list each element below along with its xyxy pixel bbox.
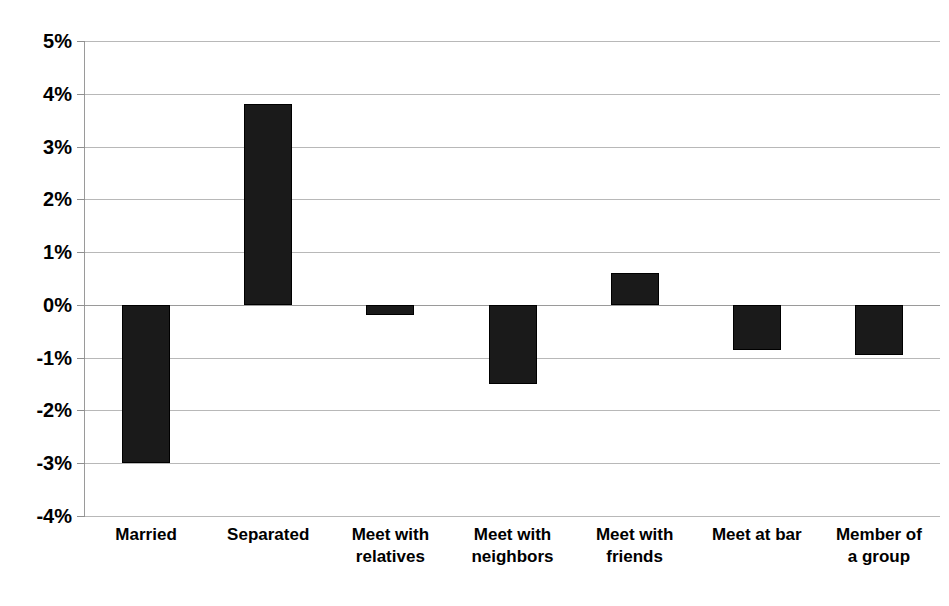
- gridline--2: [85, 410, 940, 411]
- y-axis-label: -2%: [0, 400, 72, 420]
- y-tick-mark: [77, 199, 85, 200]
- y-tick-mark: [77, 94, 85, 95]
- x-axis-label: Meet with friends: [574, 524, 696, 568]
- plot-area: [85, 41, 940, 516]
- gridline-5: [85, 41, 940, 42]
- y-axis-label: 5%: [0, 31, 72, 51]
- y-axis-label: 0%: [0, 295, 72, 315]
- y-tick-mark: [77, 147, 85, 148]
- x-axis-label: Married: [85, 524, 207, 546]
- bar-chart: 5%4%3%2%1%0%-1%-2%-3%-4% MarriedSeparate…: [0, 0, 949, 606]
- bar: [489, 305, 537, 384]
- bar: [122, 305, 170, 463]
- y-axis-label: -3%: [0, 453, 72, 473]
- gridline-4: [85, 94, 940, 95]
- x-axis-label: Separated: [207, 524, 329, 546]
- gridline-1: [85, 252, 940, 253]
- y-axis-label: -4%: [0, 506, 72, 526]
- y-tick-mark: [77, 516, 85, 517]
- y-tick-mark: [77, 410, 85, 411]
- y-tick-mark: [77, 463, 85, 464]
- x-axis-category-labels: MarriedSeparatedMeet with relativesMeet …: [85, 524, 940, 600]
- bar: [733, 305, 781, 350]
- y-tick-mark: [77, 358, 85, 359]
- y-axis-label: -1%: [0, 348, 72, 368]
- y-tick-mark: [77, 252, 85, 253]
- x-axis-label: Meet at bar: [696, 524, 818, 546]
- gridline-2: [85, 199, 940, 200]
- gridline-3: [85, 147, 940, 148]
- x-axis-label: Meet with relatives: [329, 524, 451, 568]
- gridline--3: [85, 463, 940, 464]
- x-axis-label: Meet with neighbors: [451, 524, 573, 568]
- y-tick-mark: [77, 305, 85, 306]
- y-axis-label: 1%: [0, 242, 72, 262]
- x-axis-label: Member of a group: [818, 524, 940, 568]
- bar: [611, 273, 659, 305]
- gridline--4: [85, 516, 940, 517]
- y-tick-mark: [77, 41, 85, 42]
- bar: [855, 305, 903, 355]
- bar: [244, 104, 292, 305]
- y-axis-label: 4%: [0, 84, 72, 104]
- y-axis-label: 3%: [0, 137, 72, 157]
- bar: [366, 305, 414, 316]
- y-axis-label: 2%: [0, 189, 72, 209]
